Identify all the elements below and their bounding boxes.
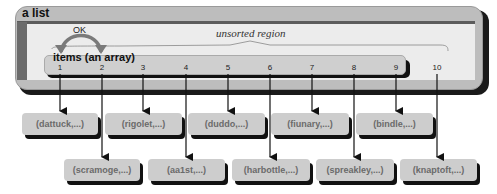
pointer-arrows-layer xyxy=(0,0,497,194)
swap-arrowhead-right-icon xyxy=(95,45,107,54)
swap-arrow-icon xyxy=(61,36,101,53)
swap-arrowhead-left-icon xyxy=(55,45,67,54)
